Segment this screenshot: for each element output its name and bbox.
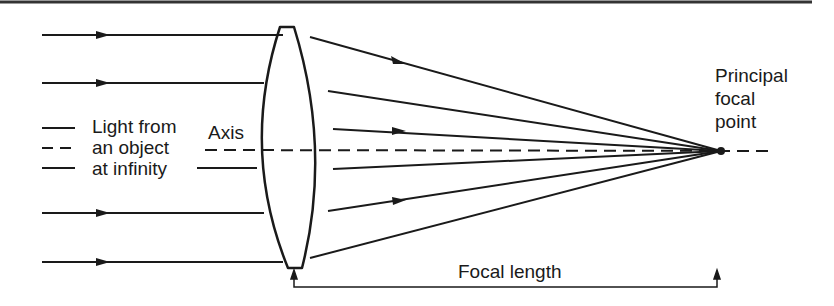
- refracted-rays: [310, 37, 721, 258]
- legend-marks: [42, 128, 75, 168]
- focal-length-label: Focal length: [458, 262, 562, 282]
- optical-axis: [205, 150, 770, 151]
- arrow-icon: [96, 31, 110, 39]
- focal-point-label-line2: focal: [715, 89, 755, 109]
- source-label-line1: Light from: [92, 117, 176, 137]
- arrow-icon: [96, 258, 110, 266]
- arrow-icon: [96, 209, 110, 217]
- arrow-icon: [96, 79, 110, 87]
- convex-lens: [262, 27, 315, 268]
- refracted-ray-arrows: [391, 56, 406, 205]
- axis-label: Axis: [208, 123, 244, 143]
- source-label-line2: an object: [92, 138, 169, 158]
- source-label-line3: at infinity: [92, 159, 167, 179]
- focal-point-label-line1: Principal: [715, 66, 788, 86]
- lens-diagram: Light from an object at infinity Axis Pr…: [0, 0, 834, 306]
- focal-point-label-line3: point: [715, 112, 756, 132]
- focal-point-dot: [717, 147, 725, 155]
